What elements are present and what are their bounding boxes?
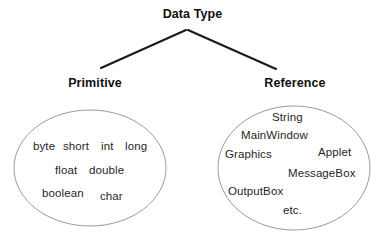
primitive-item-double: double bbox=[89, 164, 124, 176]
branch-label-reference: Reference bbox=[205, 76, 385, 90]
primitive-item-boolean: boolean bbox=[42, 187, 84, 199]
data-type-diagram: Data Type Primitive Reference byte short… bbox=[0, 0, 385, 240]
primitive-item-char: char bbox=[100, 190, 123, 202]
reference-item-string: String bbox=[272, 111, 303, 123]
primitive-item-int: int bbox=[101, 140, 113, 152]
reference-item-messagebox: MessageBox bbox=[288, 167, 355, 179]
reference-item-graphics: Graphics bbox=[225, 148, 272, 160]
reference-item-outputbox: OutputBox bbox=[228, 185, 283, 197]
diagram-canvas bbox=[0, 0, 385, 240]
primitive-item-short: short bbox=[63, 140, 89, 152]
connector-line-reference bbox=[188, 30, 276, 69]
primitive-item-long: long bbox=[125, 140, 147, 152]
branch-label-primitive: Primitive bbox=[0, 76, 190, 90]
reference-item-mainwindow: MainWindow bbox=[241, 129, 308, 141]
connector-line-primitive bbox=[101, 30, 186, 68]
primitive-item-byte: byte bbox=[33, 140, 55, 152]
reference-item-etc: etc. bbox=[283, 204, 302, 216]
reference-item-applet: Applet bbox=[318, 146, 351, 158]
root-node-label: Data Type bbox=[0, 7, 385, 21]
primitive-item-float: float bbox=[55, 164, 77, 176]
